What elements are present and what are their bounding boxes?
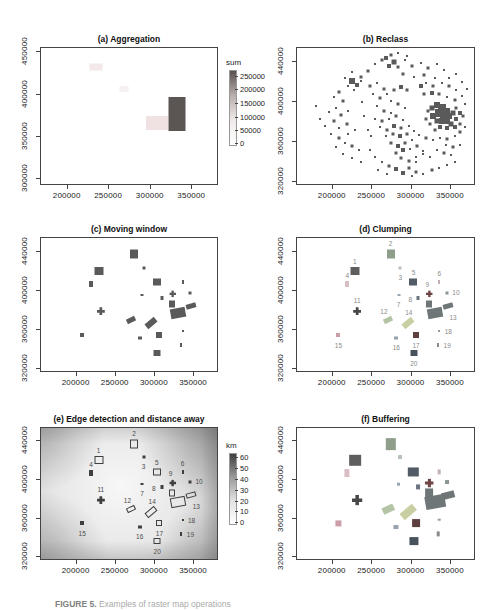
x-tick-label: 300000 xyxy=(140,378,168,387)
raster-blob xyxy=(160,485,163,489)
raster-cell xyxy=(430,169,433,172)
raster-cell xyxy=(437,93,440,96)
clump-label-7: 7 xyxy=(397,300,401,307)
raster-cell xyxy=(426,67,429,70)
y-tick xyxy=(292,368,296,369)
panel-f-plot-area xyxy=(296,427,475,560)
raster-cell xyxy=(453,125,457,129)
raster-blob xyxy=(385,438,395,450)
raster-cell xyxy=(388,165,391,168)
raster-cell xyxy=(342,153,344,155)
raster-cell xyxy=(423,93,426,96)
raster-blob xyxy=(352,495,362,505)
clump-label-12: 12 xyxy=(124,496,131,503)
raster-cell xyxy=(401,171,405,175)
raster-cell xyxy=(382,87,385,90)
raster-blob xyxy=(141,294,144,296)
legend-tick-label: 50 xyxy=(240,464,248,473)
raster-cell xyxy=(390,100,392,102)
legend-tick xyxy=(235,490,238,491)
raster-cell xyxy=(353,89,355,91)
legend-tick xyxy=(235,117,238,118)
x-tick xyxy=(108,185,109,189)
raster-blob xyxy=(417,296,420,300)
raster-cell xyxy=(425,82,427,84)
raster-cell xyxy=(380,59,383,62)
raster-blob xyxy=(89,281,93,287)
raster-cell xyxy=(399,85,403,89)
raster-blob xyxy=(169,300,175,307)
raster-blob xyxy=(409,279,417,286)
raster-cell xyxy=(398,134,402,138)
raster-blob xyxy=(189,480,192,483)
raster-cell xyxy=(386,128,389,131)
raster-cell xyxy=(404,107,406,109)
y-tick xyxy=(292,141,296,142)
raster-blob xyxy=(130,250,138,259)
raster-blob xyxy=(412,519,420,527)
raster-blob xyxy=(445,480,449,484)
clump-label-2: 2 xyxy=(132,430,136,437)
legend-tick xyxy=(235,468,238,469)
x-tick-label: 250000 xyxy=(101,566,129,575)
raster-cell xyxy=(402,119,404,121)
raster-cell xyxy=(407,159,410,162)
clump-label-6: 6 xyxy=(181,459,185,466)
raster-cell xyxy=(347,85,349,87)
clump-label-10: 10 xyxy=(195,477,202,484)
raster-blob xyxy=(80,521,84,525)
raster-blob xyxy=(126,316,136,324)
raster-cell xyxy=(422,173,424,175)
raster-cell xyxy=(407,166,410,169)
raster-cell xyxy=(436,63,438,65)
raster-cell xyxy=(376,82,378,84)
raster-blob xyxy=(409,537,418,545)
clump-label-1: 1 xyxy=(353,257,357,264)
raster-blob xyxy=(180,532,182,536)
clump-label-11: 11 xyxy=(354,297,361,304)
legend-tick xyxy=(235,143,238,144)
raster-cell xyxy=(413,130,415,132)
clump-label-18: 18 xyxy=(445,327,452,334)
legend-colorbar xyxy=(229,70,237,146)
clump-label-1: 1 xyxy=(97,447,101,454)
y-tick xyxy=(292,181,296,182)
raster-cell xyxy=(363,115,365,117)
raster-cell xyxy=(340,113,343,116)
raster-cell xyxy=(389,142,392,145)
raster-blob xyxy=(445,291,448,294)
x-tick-label: 200000 xyxy=(53,191,81,200)
raster-cell xyxy=(408,125,410,127)
y-tick-label: 400000 xyxy=(276,276,285,304)
clump-label-2: 2 xyxy=(389,240,393,247)
raster-cell xyxy=(419,84,423,88)
y-tick xyxy=(36,136,40,137)
y-tick-label: 320000 xyxy=(276,354,285,382)
raster-cell xyxy=(338,90,341,93)
raster-blob xyxy=(336,333,340,337)
x-tick-label: 350000 xyxy=(177,191,205,200)
x-tick xyxy=(450,372,451,376)
raster-cell xyxy=(426,109,429,112)
raster-cell xyxy=(382,109,385,112)
raster-blob xyxy=(80,333,84,337)
raster-cell xyxy=(422,153,424,155)
y-tick xyxy=(36,556,40,557)
raster-blob xyxy=(153,468,161,475)
raster-cell xyxy=(434,128,437,131)
raster-cell xyxy=(397,52,399,54)
clump-label-17: 17 xyxy=(156,530,163,537)
raster-cell xyxy=(430,91,434,95)
raster-blob xyxy=(381,503,394,514)
caption-label: FIGURE 5. xyxy=(55,599,97,609)
panel-b-title: (b) Reclass xyxy=(296,34,475,44)
x-tick xyxy=(332,185,333,189)
raster-cell xyxy=(401,148,405,152)
y-tick-label: 360000 xyxy=(20,315,29,343)
raster-blob xyxy=(182,519,184,521)
x-tick-label: 200000 xyxy=(62,566,90,575)
y-tick xyxy=(292,518,296,519)
y-tick-label: 360000 xyxy=(20,504,29,532)
raster-cell xyxy=(376,105,378,107)
raster-cell xyxy=(425,136,428,139)
